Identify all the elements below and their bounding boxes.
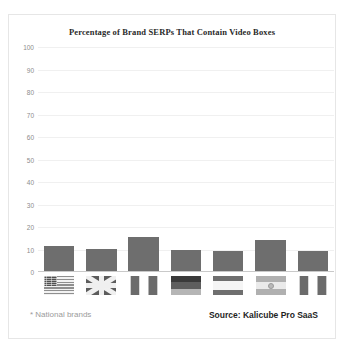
flag-usa-icon [38, 274, 80, 298]
y-tick-label: 50 [27, 156, 34, 163]
flag-france-icon [123, 274, 165, 298]
bar-slot [249, 47, 291, 272]
y-tick-label: 10 [27, 246, 34, 253]
bar-italy[interactable] [298, 251, 328, 271]
bar-slot [80, 47, 122, 272]
y-tick-label: 90 [27, 66, 34, 73]
bar-argentina[interactable] [255, 240, 285, 272]
frame-border-bottom [8, 338, 336, 339]
footnote-national-brands: * National brands [30, 310, 91, 319]
y-tick-label: 20 [27, 224, 34, 231]
bar-germany[interactable] [171, 250, 201, 271]
bar-slot [292, 47, 334, 272]
chart-figure: Percentage of Brand SERPs That Contain V… [0, 0, 344, 343]
bar-slot [123, 47, 165, 272]
source-attribution: Source: Kalicube Pro SaaS [209, 310, 318, 320]
bar-slot [207, 47, 249, 272]
flag-spain-icon [207, 274, 249, 298]
bar-series [38, 47, 334, 272]
bar-france[interactable] [128, 237, 158, 271]
y-tick-label: 40 [27, 179, 34, 186]
x-axis-line [38, 271, 334, 272]
y-axis-tick-labels: 1009080706050403020100 [0, 47, 34, 272]
y-tick-label: 60 [27, 134, 34, 141]
y-tick-label: 70 [27, 111, 34, 118]
x-axis-flag-labels [38, 274, 334, 298]
y-tick-label: 80 [27, 89, 34, 96]
flag-germany-icon [165, 274, 207, 298]
flag-argentina-icon [249, 274, 291, 298]
frame-border-top [8, 14, 336, 15]
bar-usa[interactable] [44, 246, 74, 271]
bar-slot [165, 47, 207, 272]
plot-area [38, 47, 334, 272]
y-tick-label: 100 [23, 44, 34, 51]
flag-uk-icon [80, 274, 122, 298]
flag-italy-icon [292, 274, 334, 298]
y-tick-label: 30 [27, 201, 34, 208]
chart-title: Percentage of Brand SERPs That Contain V… [0, 27, 344, 37]
bar-slot [38, 47, 80, 272]
frame-border-right [335, 14, 336, 339]
bar-spain[interactable] [213, 251, 243, 271]
bar-uk[interactable] [86, 249, 116, 272]
y-tick-label: 0 [30, 269, 34, 276]
